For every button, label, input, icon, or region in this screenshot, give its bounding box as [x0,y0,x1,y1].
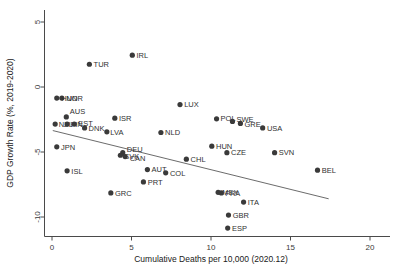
data-point: CHL [184,155,206,164]
point-label: JPN [61,143,75,152]
point-label: GRC [115,189,132,198]
point-marker [64,114,69,119]
point-marker [141,179,146,184]
point-label: TUR [94,60,110,69]
data-point: LUX [177,100,198,109]
regression-line [53,131,329,199]
data-point: ISR [112,114,132,123]
x-tick-label: 10 [207,243,216,252]
point-label: CHL [191,155,206,164]
point-marker [158,130,163,135]
point-label: LVA [110,128,123,137]
point-label: SVN [279,148,294,157]
point-label: COL [170,169,185,178]
point-label: CZE [231,148,246,157]
point-label: IRL [136,51,148,60]
point-label: CAN [130,154,146,163]
data-point: NLD [158,128,180,137]
data-point: SVN [272,148,294,157]
data-point: PRT [141,178,163,187]
x-tick-label: 5 [129,243,134,252]
x-tick-label: 20 [366,243,375,252]
point-label: HUN [216,142,232,151]
point-label: BEL [322,166,336,175]
axis-titles: Cumulative Deaths per 10,000 (2020.12)GD… [5,58,288,264]
point-marker [238,121,243,126]
point-marker [104,129,109,134]
point-label: USA [267,124,282,133]
data-point: DNK [82,124,104,133]
point-label: LUX [184,100,199,109]
point-marker [54,95,59,100]
point-marker [112,116,117,121]
x-tick-label: 0 [50,243,55,252]
data-point: CAN [123,154,146,163]
data-point: AUS [64,107,86,120]
point-marker [315,168,320,173]
point-label: GBR [233,211,250,220]
data-point: USA [260,124,282,133]
data-point: GBR [226,211,250,220]
point-label: HUN [61,94,77,103]
data-point: HUN [209,142,232,151]
scatter-chart: 50-5-1005101520 IRLTURNORHUNLUXAUSISRPOL… [0,0,396,276]
point-marker [82,125,87,130]
axes: 50-5-1005101520 [33,10,390,252]
point-label: AUS [70,107,85,116]
point-marker [54,144,59,149]
point-marker [87,62,92,67]
point-label: NLD [165,128,181,137]
point-marker [260,125,265,130]
point-label: ITA [248,198,259,207]
point-marker [65,168,70,173]
point-label: GRE [244,120,260,129]
y-axis-title: GDP Growth Rate (%, 2019-2020) [5,58,15,187]
y-tick-label: 5 [33,19,42,24]
data-points: IRLTURNORHUNLUXAUSISRPOLNZLFINESTSWEGRED… [53,51,336,233]
point-marker [163,170,168,175]
point-marker [224,150,229,155]
point-marker [219,190,224,195]
data-point: JPN [54,143,75,152]
plot-area: 50-5-1005101520 IRLTURNORHUNLUXAUSISRPOL… [0,0,396,276]
x-axis-title: Cumulative Deaths per 10,000 (2020.12) [134,254,288,264]
point-marker [214,116,219,121]
point-label: DNK [89,124,105,133]
y-tick-label: -10 [33,211,42,223]
point-label: PRT [148,178,163,187]
data-point: GRC [108,189,132,198]
point-label: ISR [119,114,132,123]
point-marker [72,121,77,126]
point-marker [145,167,150,172]
point-marker [225,225,230,230]
point-marker [209,144,214,149]
data-point: TUR [87,60,110,69]
point-label: ISL [71,167,82,176]
data-point: GRE [238,120,261,129]
point-marker [123,154,128,159]
point-marker [226,212,231,217]
y-tick-label: -5 [33,148,42,156]
y-tick-label: 0 [33,84,42,89]
data-point: BEL [315,166,336,175]
point-marker [230,119,235,124]
data-point: ISL [65,167,83,176]
data-point: IRL [130,51,148,60]
data-point: LVA [104,128,123,137]
point-marker [108,190,113,195]
point-marker [130,53,135,58]
point-marker [241,199,246,204]
fit-line [53,131,329,199]
data-point: HUN [54,94,77,103]
data-point: ITA [241,198,259,207]
point-marker [53,121,58,126]
point-marker [177,102,182,107]
point-marker [272,150,277,155]
data-point: ESP [225,224,247,233]
point-label: ESP [232,224,247,233]
point-marker [184,157,189,162]
x-tick-label: 15 [286,243,295,252]
point-marker [65,121,70,126]
point-label: FRA [225,189,240,198]
point-marker [118,153,123,158]
